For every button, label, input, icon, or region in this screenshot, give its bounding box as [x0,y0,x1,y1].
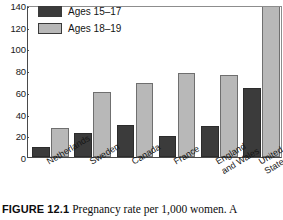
y-tick-label: 40 [0,110,26,119]
legend-label: Ages 15–17 [68,7,121,17]
bar [201,126,219,157]
bar-group [201,7,238,157]
legend-label: Ages 18–19 [68,24,121,34]
figure-container: 140 120 100 80 60 40 20 0 Ages 15–17 [0,0,283,220]
bar-group [159,7,196,157]
figure-number: FIGURE 12.1 [2,203,69,215]
y-tick-label: 20 [0,132,26,141]
caption-text: Pregnancy rate per 1,000 women. A [72,203,237,215]
figure-caption: FIGURE 12.1 Pregnancy rate per 1,000 wom… [2,203,283,216]
chart-plot-area: 140 120 100 80 60 40 20 0 Ages 15–17 [0,0,283,165]
y-axis-labels: 140 120 100 80 60 40 20 0 [0,0,26,165]
legend-swatch-light [38,23,62,34]
y-tick-label: 80 [0,67,26,76]
y-tick-label: 120 [0,23,26,32]
legend-item-ages-15-17: Ages 15–17 [38,4,121,19]
y-tick-label: 100 [0,45,26,54]
y-tick-label: 140 [0,2,26,11]
y-tick-label: 60 [0,88,26,97]
bar-group [117,7,154,157]
legend-swatch-dark [38,6,62,17]
bar [262,6,280,157]
bar-group [243,7,280,157]
x-axis-category-labels: NetherlandsSwedenCanadaFranceEnglandand … [0,158,283,200]
legend-item-ages-18-19: Ages 18–19 [38,21,121,36]
bar [117,125,135,157]
bar [159,136,177,158]
chart-legend: Ages 15–17 Ages 18–19 [38,4,121,38]
